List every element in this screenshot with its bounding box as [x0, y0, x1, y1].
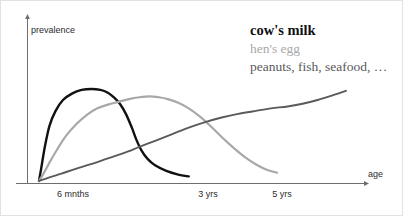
prevalence-chart-figure: prevalence age 6 mnths 3 yrs 5 yrs cow's…: [0, 0, 403, 216]
legend-entry-hens-egg: hen's egg: [250, 40, 387, 58]
legend-entry-cows-milk: cow's milk: [250, 21, 387, 40]
chart-legend: cow's milk hen's egg peanuts, fish, seaf…: [250, 21, 387, 76]
legend-entry-peanuts-fish-seafood: peanuts, fish, seafood, …: [250, 58, 387, 76]
x-tick-label-6-mnths: 6 mnths: [57, 189, 89, 199]
series-line-peanuts-fish-seafood: [39, 91, 346, 181]
x-tick-label-5-yrs: 5 yrs: [272, 189, 292, 199]
x-tick-label-3-yrs: 3 yrs: [198, 189, 218, 199]
y-axis-label: prevalence: [31, 25, 75, 35]
x-axis-label: age: [368, 169, 383, 179]
